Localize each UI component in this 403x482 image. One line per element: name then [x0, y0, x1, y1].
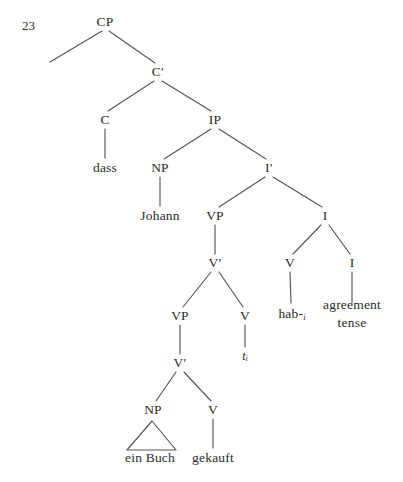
tree-branch	[156, 372, 176, 401]
tree-node-ihead_i: I	[350, 256, 355, 270]
tree-node-c: C	[100, 113, 109, 127]
tree-branch	[273, 177, 322, 207]
index-subscript: i	[303, 312, 305, 322]
tree-node-vfinal: V	[208, 403, 218, 417]
tree-terminal-johann: Johann	[140, 208, 179, 224]
tree-terminal-ti: ti	[242, 349, 248, 364]
tree-node-ibar: I′	[265, 161, 273, 175]
tree-terminal-agreement: agreementtense	[323, 296, 381, 332]
tree-node-i1: I	[323, 209, 328, 223]
terminal-text: tense	[338, 315, 367, 330]
tree-terminal-habi: hab-i	[278, 306, 305, 322]
tree-branch	[183, 272, 211, 307]
tree-branch	[162, 81, 211, 111]
np-triangle	[127, 421, 176, 450]
terminal-text: agreement	[323, 297, 381, 312]
tree-node-np2: NP	[144, 403, 162, 417]
tree-branch	[293, 225, 321, 254]
terminal-text: dass	[93, 160, 117, 175]
terminal-text: gekauft	[192, 450, 234, 465]
terminal-text: Johann	[140, 208, 179, 223]
tree-node-ip: IP	[209, 113, 221, 127]
terminal-text: ein Buch	[125, 450, 175, 465]
tree-node-cbar: C′	[152, 65, 164, 79]
tree-node-vp1: VP	[206, 209, 224, 223]
tree-terminal-gekauft: gekauft	[192, 450, 234, 466]
tree-node-cp: CP	[97, 15, 114, 29]
tree-branch	[219, 129, 266, 159]
tree-node-vbar2: V′	[173, 356, 186, 370]
tree-branch	[164, 129, 211, 159]
tree-node-vtrace: V	[240, 309, 250, 323]
tree-branch	[329, 225, 350, 254]
tree-terminal-einbuch: ein Buch	[125, 450, 175, 466]
tree-line-canvas	[0, 0, 403, 482]
tree-branch	[219, 177, 265, 207]
tree-node-np1: NP	[151, 161, 169, 175]
tree-branch	[108, 81, 154, 111]
tree-branch	[50, 31, 102, 62]
tree-branch	[184, 372, 211, 401]
tree-terminal-dass: dass	[93, 160, 117, 176]
syntax-tree-figure: 23 CPC′CIPNPI′VPIV′VIVPVV′NPV dassJohann…	[0, 0, 403, 482]
tree-node-vbar1: V′	[208, 256, 221, 270]
tree-branch	[109, 31, 155, 63]
index-subscript: i	[246, 354, 248, 363]
tree-branch	[290, 272, 291, 303]
example-number: 23	[22, 18, 35, 34]
tree-node-vhead_i: V	[285, 256, 295, 270]
np-triangle-shape	[127, 421, 176, 450]
tree-branch	[219, 272, 243, 307]
tree-node-vp2: VP	[171, 309, 189, 323]
terminal-text: hab-	[278, 306, 303, 321]
tree-branches	[50, 31, 352, 448]
